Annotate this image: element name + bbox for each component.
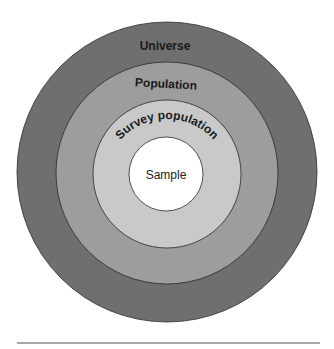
concentric-circles-diagram: Universe Population Survey population Sa… <box>0 0 334 349</box>
universe-label: Universe <box>140 39 191 53</box>
sample-label: Sample <box>146 168 187 182</box>
